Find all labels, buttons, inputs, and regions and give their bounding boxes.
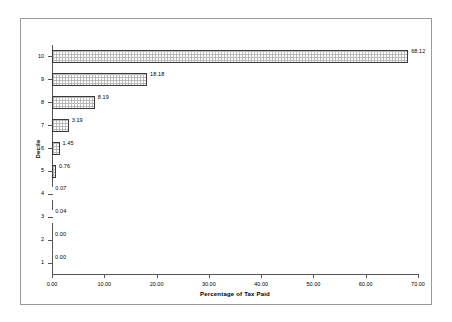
value-tick <box>209 274 210 278</box>
category-tick <box>48 148 53 149</box>
value-tick <box>313 274 314 278</box>
bar-row: 1.45 <box>52 137 418 160</box>
category-label-10: 10 <box>24 53 44 60</box>
bar-value-label-decile-8: 8.19 <box>98 94 109 101</box>
value-tick <box>52 274 53 278</box>
category-tick <box>48 125 53 126</box>
plot-area: 68.1218.188.193.191.450.760.070.040.000.… <box>52 45 418 274</box>
bar-decile-10 <box>52 50 408 63</box>
bar-value-label-decile-3: 0.04 <box>55 208 66 215</box>
bar-value-label-decile-7: 3.19 <box>72 117 83 124</box>
value-tick-label: 40.00 <box>241 281 281 288</box>
bar-value-label-decile-5: 0.76 <box>59 163 70 170</box>
category-tick <box>48 217 53 218</box>
bar-decile-9 <box>52 73 147 86</box>
bar-row: 68.12 <box>52 45 418 68</box>
category-label-3: 3 <box>24 213 44 220</box>
category-tick <box>48 79 53 80</box>
bar-value-label-decile-4: 0.07 <box>55 185 66 192</box>
category-label-6: 6 <box>24 145 44 152</box>
bar-decile-6 <box>52 142 60 155</box>
bar-value-label-decile-9: 18.18 <box>150 71 164 78</box>
bar-row: 0.00 <box>52 251 418 274</box>
category-label-7: 7 <box>24 122 44 129</box>
value-tick-label: 70.00 <box>398 281 438 288</box>
category-tick <box>48 171 53 172</box>
bar-row: 3.19 <box>52 114 418 137</box>
bar-value-label-decile-6: 1.45 <box>63 140 74 147</box>
category-tick <box>48 102 53 103</box>
bar-row: 0.00 <box>52 228 418 251</box>
value-tick-label: 0.00 <box>32 281 72 288</box>
bar-decile-7 <box>52 119 69 132</box>
bar-row: 8.19 <box>52 91 418 114</box>
value-tick <box>261 274 262 278</box>
category-label-9: 9 <box>24 76 44 83</box>
category-label-1: 1 <box>24 259 44 266</box>
bar-decile-8 <box>52 96 95 109</box>
bar-value-label-decile-2: 0.00 <box>55 231 66 238</box>
bar-row: 0.07 <box>52 182 418 205</box>
bar-value-label-decile-1: 0.00 <box>55 254 66 261</box>
bar-row: 0.76 <box>52 160 418 183</box>
value-tick-label: 50.00 <box>293 281 333 288</box>
value-tick-label: 30.00 <box>189 281 229 288</box>
value-axis-line <box>52 274 419 275</box>
bar-value-label-decile-10: 68.12 <box>411 48 425 55</box>
category-label-2: 2 <box>24 236 44 243</box>
category-tick <box>48 194 53 195</box>
value-tick-label: 20.00 <box>137 281 177 288</box>
category-label-8: 8 <box>24 99 44 106</box>
bar-row: 18.18 <box>52 68 418 91</box>
category-tick <box>48 263 53 264</box>
category-tick <box>48 56 53 57</box>
value-tick <box>366 274 367 278</box>
value-tick-label: 10.00 <box>84 281 124 288</box>
bar-row: 0.04 <box>52 205 418 228</box>
category-tick <box>48 240 53 241</box>
value-tick <box>104 274 105 278</box>
value-tick-label: 60.00 <box>346 281 386 288</box>
value-tick <box>418 274 419 278</box>
category-label-4: 4 <box>24 190 44 197</box>
value-tick <box>157 274 158 278</box>
x-axis-title: Percentage of Tax Paid <box>52 290 418 298</box>
category-label-5: 5 <box>24 167 44 174</box>
